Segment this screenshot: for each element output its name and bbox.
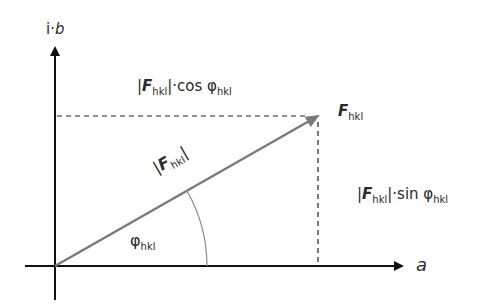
phase-angle-arc [187, 191, 207, 266]
x-axis-label: a [416, 256, 427, 274]
structure-factor-vector [55, 116, 318, 266]
diagram-canvas [0, 0, 478, 306]
phase-angle-label: φhkl [130, 233, 155, 252]
sin-projection-label: |Fhkl|·sin φhkl [357, 187, 448, 205]
y-axis-label: i·b [46, 22, 64, 37]
cos-projection-label: |Fhkl|·cos φhkl [137, 79, 232, 97]
vector-label: Fhkl [338, 104, 363, 122]
